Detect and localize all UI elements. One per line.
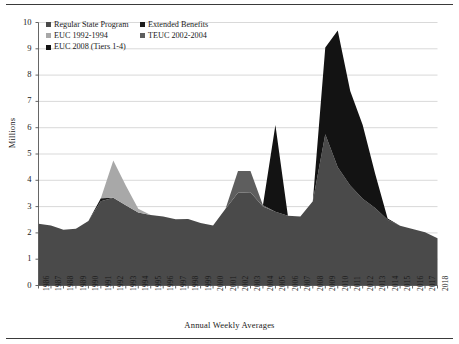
x-tick-label: 2017: [428, 275, 437, 290]
x-tick-label: 2013: [378, 275, 387, 290]
x-tick-label: 1990: [91, 275, 100, 290]
x-tick-label: 2016: [416, 275, 425, 290]
legend-row-2: EUC 1992-1994 TEUC 2002-2004: [46, 30, 208, 41]
y-tick-label: 10: [6, 17, 32, 27]
x-tick-label: 1991: [104, 275, 113, 290]
x-tick-label: 1998: [191, 275, 200, 290]
plot-area: Millions Annual Weekly Averages 01234567…: [0, 0, 459, 344]
y-tick-label: 7: [6, 95, 32, 105]
legend-swatch-icon: [46, 45, 51, 50]
x-axis-title: Annual Weekly Averages: [0, 320, 459, 330]
x-tick-label: 2018: [441, 275, 450, 290]
x-tick-label: 1999: [204, 275, 213, 290]
legend-label: EUC 2008 (Tiers 1-4): [54, 41, 126, 52]
x-tick-label: 1986: [42, 275, 51, 290]
x-tick-label: 1996: [166, 275, 175, 290]
legend-item-euc-2008[interactable]: EUC 2008 (Tiers 1-4): [46, 41, 126, 52]
x-tick-label: 1988: [66, 275, 75, 290]
legend-item-teuc-2002-2004[interactable]: TEUC 2002-2004: [140, 30, 207, 41]
legend-swatch-icon: [46, 33, 51, 38]
x-tick-label: 2006: [291, 275, 300, 290]
x-tick-label: 2003: [253, 275, 262, 290]
chart-legend: Regular State Program Extended Benefits …: [46, 19, 208, 53]
x-tick-label: 1989: [79, 275, 88, 290]
x-tick-label: 1997: [179, 275, 188, 290]
y-tick-label: 4: [6, 174, 32, 184]
x-tick-label: 2000: [216, 275, 225, 290]
legend-row-3: EUC 2008 (Tiers 1-4): [46, 41, 208, 52]
legend-label: TEUC 2002-2004: [148, 30, 207, 41]
y-tick-label: 2: [6, 227, 32, 237]
x-tick-label: 2015: [403, 275, 412, 290]
x-tick-label: 2012: [366, 275, 375, 290]
x-tick-label: 2007: [303, 275, 312, 290]
x-tick-label: 1993: [129, 275, 138, 290]
x-tick-label: 2014: [391, 275, 400, 290]
x-tick-label: 1992: [116, 275, 125, 290]
y-tick-label: 6: [6, 122, 32, 132]
legend-item-euc-1992-1994[interactable]: EUC 1992-1994: [46, 30, 140, 41]
legend-item-extended-benefits[interactable]: Extended Benefits: [140, 19, 208, 30]
legend-label: Extended Benefits: [148, 19, 208, 30]
y-tick-label: 8: [6, 69, 32, 79]
legend-item-regular-state-program[interactable]: Regular State Program: [46, 19, 140, 30]
x-tick-label: 1994: [141, 275, 150, 290]
y-tick-label: 0: [6, 280, 32, 290]
x-tick-label: 2002: [241, 275, 250, 290]
y-tick-label: 1: [6, 253, 32, 263]
x-tick-label: 1995: [154, 275, 163, 290]
x-tick-label: 2011: [353, 276, 362, 291]
y-tick-label: 3: [6, 201, 32, 211]
x-tick-label: 2001: [229, 275, 238, 290]
legend-label: EUC 1992-1994: [54, 30, 108, 41]
legend-swatch-icon: [140, 22, 145, 27]
legend-label: Regular State Program: [54, 19, 129, 30]
x-tick-label: 2008: [316, 275, 325, 290]
legend-swatch-icon: [140, 33, 145, 38]
x-tick-label: 2004: [266, 275, 275, 290]
x-tick-label: 2005: [278, 275, 287, 290]
legend-row-1: Regular State Program Extended Benefits: [46, 19, 208, 30]
x-tick-label: 2010: [341, 275, 350, 290]
y-tick-label: 9: [6, 43, 32, 53]
y-tick-label: 5: [6, 148, 32, 158]
x-tick-label: 2009: [328, 275, 337, 290]
legend-swatch-icon: [46, 22, 51, 27]
figure: Millions Annual Weekly Averages 01234567…: [0, 0, 459, 344]
x-tick-label: 1987: [54, 275, 63, 290]
